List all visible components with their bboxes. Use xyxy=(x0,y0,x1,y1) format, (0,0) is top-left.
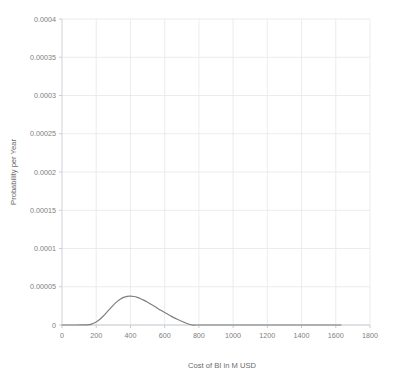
y-axis-tick-label: 0.0003 xyxy=(34,91,56,100)
y-axis-tick-label: 0.0004 xyxy=(34,15,56,24)
x-axis-tick-label: 1800 xyxy=(362,331,378,340)
y-axis-tick-labels: 00.000050.00010.000150.00020.000250.0003… xyxy=(30,15,56,330)
y-axis-tick-label: 0 xyxy=(52,321,56,330)
density-curve xyxy=(62,296,341,325)
x-axis-tick-label: 1200 xyxy=(259,331,275,340)
chart-container: 00.000050.00010.000150.00020.000250.0003… xyxy=(0,0,397,376)
x-axis-tick-labels: 020040060080010001200140016001800 xyxy=(60,331,378,340)
x-axis-tick-label: 800 xyxy=(193,331,205,340)
gridlines xyxy=(62,19,370,325)
x-axis-title: Cost of BI in M USD xyxy=(188,361,256,370)
y-axis-tick-label: 0.00025 xyxy=(30,129,56,138)
y-axis-tick-label: 0.00035 xyxy=(30,53,56,62)
x-axis-tick-label: 200 xyxy=(90,331,102,340)
x-axis-tick-label: 600 xyxy=(159,331,171,340)
probability-density-line xyxy=(62,296,341,325)
x-axis-tick-label: 1000 xyxy=(225,331,241,340)
x-axis-tick-label: 1400 xyxy=(294,331,310,340)
y-axis-tick-label: 0.0002 xyxy=(34,168,56,177)
probability-density-chart: 00.000050.00010.000150.00020.000250.0003… xyxy=(0,0,397,376)
x-axis-tick-label: 0 xyxy=(60,331,64,340)
plot-frame xyxy=(59,19,370,328)
x-axis-tick-label: 400 xyxy=(124,331,136,340)
y-axis-tick-label: 0.00015 xyxy=(30,206,56,215)
y-axis-tick-label: 0.0001 xyxy=(34,244,56,253)
x-axis-tick-label: 1600 xyxy=(328,331,344,340)
y-axis-tick-label: 0.00005 xyxy=(30,282,56,291)
y-axis-title: Probability per Year xyxy=(9,139,18,205)
